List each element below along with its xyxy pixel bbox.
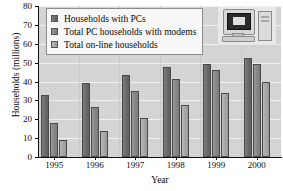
x-tick-label: 1996 bbox=[75, 160, 115, 170]
bar bbox=[41, 95, 49, 157]
y-tick-mark bbox=[35, 44, 38, 45]
screen-content bbox=[233, 17, 245, 25]
y-tick-mark bbox=[35, 157, 38, 158]
bar bbox=[100, 131, 108, 157]
bar bbox=[262, 82, 270, 158]
y-tick-mark bbox=[35, 63, 38, 64]
legend-label: Households with PCs bbox=[64, 14, 146, 24]
x-tick-label: 1999 bbox=[196, 160, 236, 170]
y-tick-label: 50 bbox=[6, 58, 32, 68]
x-tick-label: 2000 bbox=[237, 160, 277, 170]
y-tick-label: 60 bbox=[6, 39, 32, 49]
legend-label: Total on-line households bbox=[64, 40, 158, 50]
x-axis-line bbox=[38, 157, 282, 158]
y-tick-mark bbox=[35, 138, 38, 139]
chart-legend: Households with PCs Total PC households … bbox=[46, 8, 203, 55]
y-tick-label: 20 bbox=[6, 114, 32, 124]
x-tick-label: 1997 bbox=[115, 160, 155, 170]
legend-item: Households with PCs bbox=[51, 12, 196, 25]
bar bbox=[50, 123, 58, 157]
legend-swatch-icon bbox=[51, 41, 58, 48]
y-tick-label: 70 bbox=[6, 20, 32, 30]
x-axis-label: Year bbox=[38, 175, 282, 185]
x-tick-mark bbox=[95, 157, 96, 160]
y-axis-line bbox=[38, 6, 39, 158]
legend-item: Total on-line households bbox=[51, 38, 196, 51]
x-tick-mark bbox=[135, 157, 136, 160]
y-tick-mark bbox=[35, 6, 38, 7]
legend-swatch-icon bbox=[51, 15, 58, 22]
y-tick-mark bbox=[35, 25, 38, 26]
monitor-base bbox=[222, 36, 255, 42]
y-tick-mark bbox=[35, 100, 38, 101]
x-tick-mark bbox=[176, 157, 177, 160]
x-tick-mark bbox=[257, 157, 258, 160]
bar bbox=[221, 93, 229, 157]
y-tick-label: 40 bbox=[6, 77, 32, 87]
y-tick-label: 0 bbox=[6, 152, 32, 162]
bar bbox=[82, 83, 90, 157]
bar bbox=[131, 91, 139, 157]
bar bbox=[91, 107, 99, 157]
bar bbox=[212, 70, 220, 157]
x-tick-label: 1995 bbox=[34, 160, 74, 170]
x-tick-label: 1998 bbox=[156, 160, 196, 170]
x-tick-mark bbox=[54, 157, 55, 160]
bar bbox=[163, 67, 171, 157]
monitor-screen bbox=[227, 13, 251, 30]
tower-slot bbox=[261, 16, 269, 18]
bar bbox=[59, 140, 67, 157]
y-tick-label: 30 bbox=[6, 95, 32, 105]
y-tick-label: 10 bbox=[6, 133, 32, 143]
computer-tower bbox=[258, 11, 272, 41]
y-tick-mark bbox=[35, 82, 38, 83]
bar bbox=[172, 79, 180, 157]
bar bbox=[181, 105, 189, 157]
x-tick-mark bbox=[216, 157, 217, 160]
tower-slot bbox=[261, 20, 269, 22]
bar bbox=[203, 64, 211, 157]
legend-item: Total PC households with modems bbox=[51, 25, 196, 38]
bar bbox=[140, 118, 148, 157]
desktop-computer-icon bbox=[218, 7, 276, 45]
legend-label: Total PC households with modems bbox=[64, 27, 196, 37]
monitor-body bbox=[223, 9, 255, 35]
bar bbox=[244, 58, 252, 157]
y-tick-label: 80 bbox=[6, 1, 32, 11]
bar-chart-figure: Households (millions) Households with PC… bbox=[0, 0, 283, 191]
bar bbox=[122, 75, 130, 157]
bar bbox=[253, 64, 261, 157]
legend-swatch-icon bbox=[51, 28, 58, 35]
y-tick-mark bbox=[35, 119, 38, 120]
